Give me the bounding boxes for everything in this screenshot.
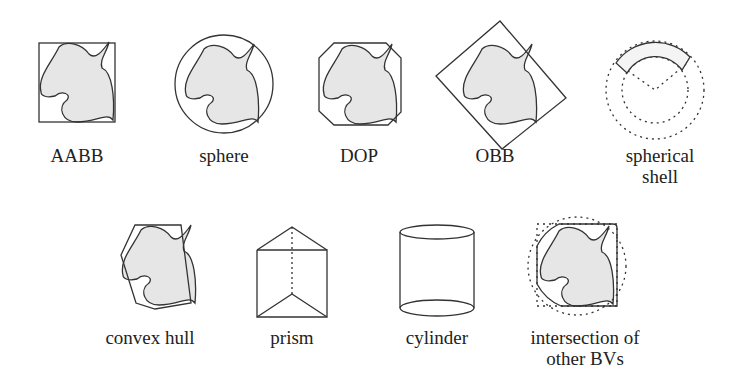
convex-hull-shape [121,225,196,309]
label-spherical-shell-line2: shell [642,166,678,187]
intersection-shape [528,217,626,315]
label-prism: prism [270,327,313,348]
label-intersection-line2: other BVs [546,348,624,369]
aabb-shape [39,42,115,122]
label-obb: OBB [475,145,514,166]
label-intersection-line1: intersection of [530,327,639,348]
label-convex-hull: convex hull [105,327,194,348]
dop-shape [319,43,401,125]
label-sphere: sphere [199,145,249,166]
label-spherical-shell-line1: spherical [626,145,695,166]
spherical-shell-shape [606,41,704,139]
obb-shape [436,21,566,149]
prism-shape [257,227,327,317]
cylinder-shape [400,225,474,316]
sphere-shape [175,35,273,133]
label-aabb: AABB [51,145,104,166]
label-dop: DOP [340,145,378,166]
label-cylinder: cylinder [406,327,468,348]
